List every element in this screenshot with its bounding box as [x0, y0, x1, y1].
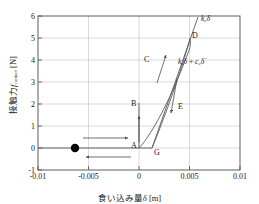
point-label-g: G [154, 148, 160, 157]
point-label-d: D [192, 31, 198, 40]
body-dot-marker [71, 144, 79, 152]
point-label-a: A [131, 141, 137, 150]
point-label-b: B [131, 99, 136, 108]
ytick-2: 2 [19, 100, 35, 109]
ytick-0: 0 [19, 144, 35, 153]
contact-force-penetration-chart: 6 5 4 3 2 1 0 -1 -0.01 -0.005 0 0.005 0.… [0, 0, 259, 204]
formula-stiffness: kcδ [201, 14, 210, 23]
ytick-1: 1 [19, 122, 35, 131]
xtick-0: 0 [137, 172, 141, 181]
xtick-0.01: 0.01 [233, 172, 247, 181]
ytick-6: 6 [19, 12, 35, 21]
xtick-0.005: 0.005 [181, 172, 199, 181]
xtick-neg0.005: -0.005 [78, 172, 99, 181]
xtick-neg0.01: -0.01 [30, 172, 47, 181]
x-axis-label: 食い込み量δ [m] [0, 191, 259, 203]
formula-stiffness-damping: kcδ + ccδ̇ [178, 57, 204, 66]
point-label-e: E [178, 102, 183, 111]
loading-arrow-icon [157, 55, 166, 83]
y-axis-label: 接触力fcontact [N] [6, 10, 18, 160]
ytick-4: 4 [19, 56, 35, 65]
point-label-c: C [144, 55, 149, 64]
ytick-5: 5 [19, 34, 35, 43]
ytick-3: 3 [19, 78, 35, 87]
